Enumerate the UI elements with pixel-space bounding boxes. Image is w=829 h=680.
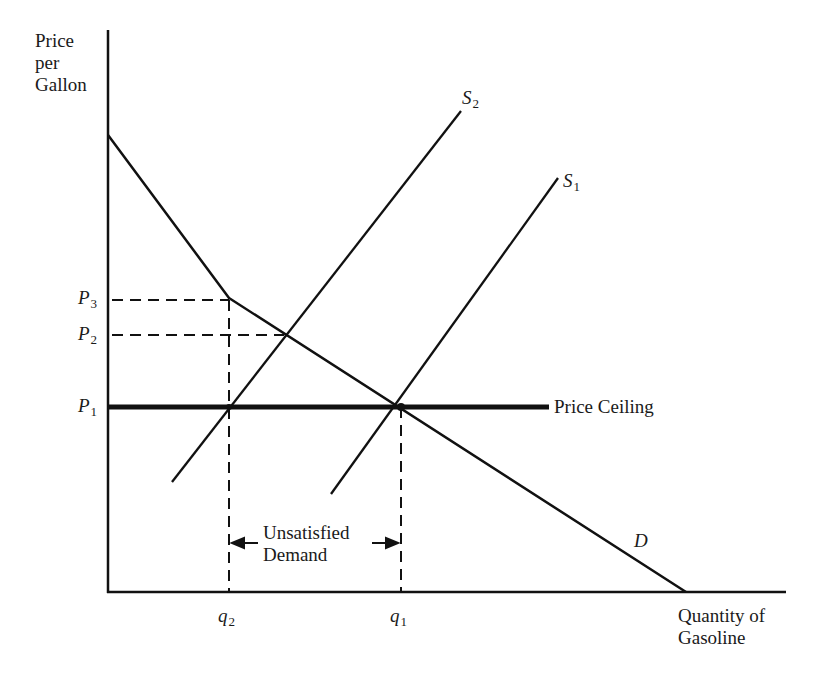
- x-axis-title: Quantity of Gasoline: [678, 605, 765, 649]
- label-s1: S1: [563, 170, 580, 198]
- y-axis-title-line: Price: [35, 30, 87, 52]
- unsatisfied-demand-line: Unsatisfied: [263, 522, 350, 544]
- label-d: D: [634, 530, 648, 552]
- demand-curve: [108, 135, 686, 592]
- y-axis-title-line: per: [35, 52, 87, 74]
- y-axis-title-line: Gallon: [35, 74, 87, 96]
- label-s2: S2: [462, 87, 479, 115]
- equilibrium-point: [397, 403, 405, 411]
- tick-label-p3: P3: [78, 287, 97, 315]
- x-axis-title-line: Gasoline: [678, 627, 765, 649]
- supply-curve-s1: [331, 178, 558, 494]
- unsatisfied-demand-label: Unsatisfied Demand: [263, 522, 350, 566]
- price-ceiling-label: Price Ceiling: [554, 396, 654, 418]
- chart-canvas: [0, 0, 829, 680]
- supply-curve-s2: [172, 111, 461, 482]
- y-axis-title: Price per Gallon: [35, 30, 87, 96]
- tick-label-q2: q2: [218, 605, 235, 633]
- right-arrow-icon: [386, 538, 398, 548]
- tick-label-p1: P1: [78, 395, 97, 423]
- x-axis-title-line: Quantity of: [678, 605, 765, 627]
- left-arrow-icon: [232, 538, 244, 548]
- unsatisfied-demand-line: Demand: [263, 544, 350, 566]
- tick-label-q1: q1: [390, 605, 407, 633]
- ceiling-s2-point: [226, 404, 232, 410]
- tick-label-p2: P2: [78, 323, 97, 351]
